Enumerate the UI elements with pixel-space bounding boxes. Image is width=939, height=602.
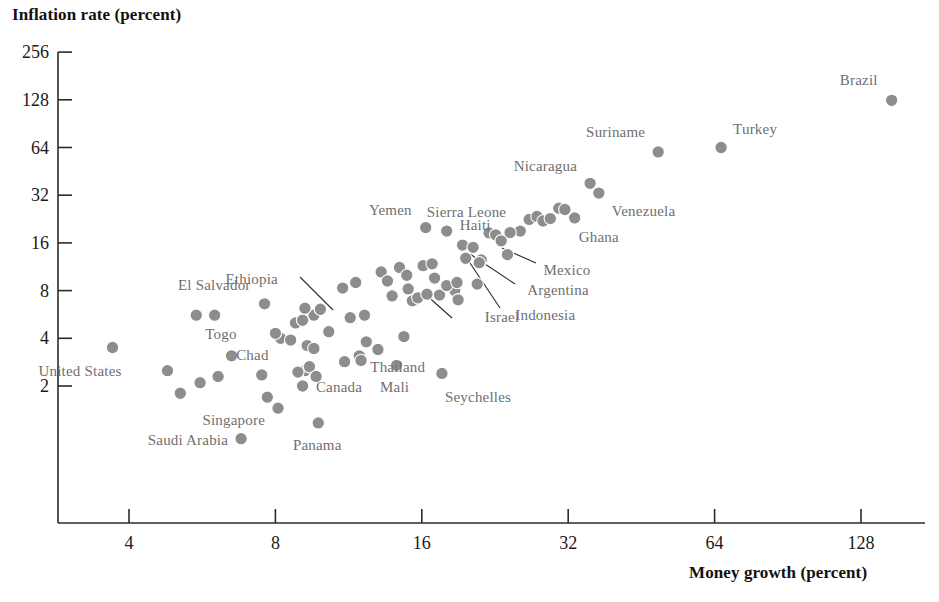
data-point [349,276,361,288]
data-point [358,309,370,321]
data-point [355,354,367,366]
data-point [428,272,440,284]
data-point [460,252,472,264]
data-point [452,294,464,306]
point-label-yemen: Yemen [369,201,412,218]
y-tick-label-64: 64 [31,137,49,158]
data-point [299,302,311,314]
data-point [308,342,320,354]
data-point [440,225,452,237]
data-point [402,283,414,295]
point-label-venezuela: Venezuela [612,203,675,220]
plot-area [0,0,939,602]
point-label-mali: Mali [380,379,409,396]
scatter-chart: Inflation rate (percent) Money growth (p… [0,0,939,602]
data-point [194,376,206,388]
y-tick-label-256: 256 [22,42,49,63]
data-point [715,141,727,153]
data-point [190,309,202,321]
point-label-united-states: United States [39,363,122,380]
x-tick-label-128: 128 [848,533,875,554]
data-point [471,278,483,290]
data-point [386,290,398,302]
point-label-argentina: Argentina [527,281,589,298]
point-label-mexico: Mexico [543,261,590,278]
data-point [885,94,897,106]
data-point [296,314,308,326]
point-label-saudi-arabia: Saudi Arabia [148,431,228,448]
point-label-togo: Togo [205,326,236,343]
data-point [372,343,384,355]
x-tick-label-16: 16 [413,533,431,554]
point-label-indonesia: Indonesia [515,306,575,323]
point-label-thailand: Thailand [370,358,425,375]
data-point [544,212,556,224]
data-point [401,269,413,281]
point-label-israel: Israel [485,308,520,325]
point-label-haiti: Haiti [460,217,491,234]
x-tick-label-8: 8 [271,533,280,554]
y-tick-label-8: 8 [40,280,49,301]
data-point [323,326,335,338]
data-point [261,391,273,403]
data-point [161,364,173,376]
data-point [235,432,247,444]
data-point [593,187,605,199]
x-tick-label-32: 32 [559,533,577,554]
data-point [501,248,513,260]
data-point [473,257,485,269]
x-tick-label-4: 4 [125,533,134,554]
data-point [272,402,284,414]
data-point [436,367,448,379]
data-point [344,311,356,323]
data-point [584,177,596,189]
point-label-brazil: Brazil [840,72,878,89]
point-label-singapore: Singapore [202,412,265,429]
data-point [421,288,433,300]
data-point [569,212,581,224]
point-label-ghana: Ghana [579,228,619,245]
x-tick-label-64: 64 [706,533,724,554]
data-point [426,258,438,270]
data-point [381,275,393,287]
point-label-seychelles: Seychelles [445,389,511,406]
data-point [467,241,479,253]
data-point [420,221,432,233]
data-point [174,387,186,399]
data-point [208,309,220,321]
point-label-nicaragua: Nicaragua [514,158,577,175]
data-point [284,334,296,346]
data-point [338,355,350,367]
data-point [292,366,304,378]
data-point [360,336,372,348]
data-point [296,380,308,392]
point-label-chad: Chad [236,347,268,364]
point-label-panama: Panama [293,436,342,453]
point-label-turkey: Turkey [733,120,777,137]
data-point [212,370,224,382]
data-point [504,226,516,238]
data-point [652,146,664,158]
data-point [256,369,268,381]
data-point [336,282,348,294]
point-label-el-salvador: El Salvador [178,276,251,293]
data-point [559,203,571,215]
data-point [314,303,326,315]
point-label-suriname: Suriname [586,123,645,140]
data-point [312,417,324,429]
y-tick-label-32: 32 [31,185,49,206]
point-label-canada: Canada [316,378,362,395]
y-tick-label-16: 16 [31,232,49,253]
data-point [269,327,281,339]
y-tick-label-128: 128 [22,89,49,110]
y-tick-label-4: 4 [40,328,49,349]
data-point [398,330,410,342]
data-point [451,276,463,288]
data-point [258,298,270,310]
data-point [106,341,118,353]
